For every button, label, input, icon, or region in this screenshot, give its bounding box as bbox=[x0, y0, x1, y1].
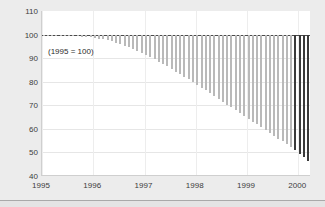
bar bbox=[196, 35, 198, 85]
bar bbox=[273, 35, 275, 136]
bottom-strip bbox=[0, 201, 325, 207]
bar bbox=[77, 35, 79, 37]
bar bbox=[256, 35, 258, 125]
bar bbox=[136, 35, 138, 52]
bar bbox=[201, 35, 203, 88]
bar bbox=[51, 35, 53, 36]
bar bbox=[307, 35, 309, 162]
x-tick-1997: 1997 bbox=[124, 181, 164, 190]
bar bbox=[265, 35, 267, 131]
bar bbox=[183, 35, 185, 77]
bar bbox=[81, 35, 83, 37]
bar bbox=[192, 35, 194, 82]
y-tick-70: 70 bbox=[6, 101, 38, 110]
bar bbox=[132, 35, 134, 50]
bar bbox=[119, 35, 121, 44]
x-tick-1996: 1996 bbox=[72, 181, 112, 190]
chart-figure: 110100908070605040 199519961997199819992… bbox=[0, 0, 325, 207]
bar bbox=[175, 35, 177, 72]
bar bbox=[290, 35, 292, 147]
bar bbox=[124, 35, 126, 46]
bar bbox=[111, 35, 113, 42]
y-tick-80: 80 bbox=[6, 78, 38, 87]
bar bbox=[209, 35, 211, 94]
bar bbox=[252, 35, 254, 122]
bar bbox=[230, 35, 232, 108]
y-tick-40: 40 bbox=[6, 172, 38, 181]
bar bbox=[235, 35, 237, 111]
bar bbox=[154, 35, 156, 60]
bar bbox=[68, 35, 70, 36]
x-tick-1999: 1999 bbox=[226, 181, 266, 190]
bar bbox=[128, 35, 130, 48]
bar bbox=[218, 35, 220, 99]
bar bbox=[239, 35, 241, 114]
bar bbox=[179, 35, 181, 75]
y-tick-90: 90 bbox=[6, 54, 38, 63]
y-tick-50: 50 bbox=[6, 148, 38, 157]
bar bbox=[107, 35, 109, 41]
chart-annotation: (1995 = 100) bbox=[48, 47, 94, 56]
y-tick-100: 100 bbox=[6, 31, 38, 40]
bar bbox=[115, 35, 117, 43]
bar bbox=[166, 35, 168, 67]
bar bbox=[64, 35, 66, 36]
bar bbox=[72, 35, 74, 37]
bar bbox=[43, 35, 45, 36]
bar bbox=[55, 35, 57, 36]
bar bbox=[145, 35, 147, 56]
bar bbox=[141, 35, 143, 53]
bar bbox=[205, 35, 207, 91]
bar bbox=[243, 35, 245, 116]
x-tick-1998: 1998 bbox=[175, 181, 215, 190]
bar bbox=[286, 35, 288, 145]
x-tick-1995: 1995 bbox=[21, 181, 61, 190]
y-tick-110: 110 bbox=[6, 7, 38, 16]
bar bbox=[85, 35, 87, 37]
bar bbox=[158, 35, 160, 62]
bar bbox=[149, 35, 151, 58]
bar bbox=[294, 35, 296, 150]
bar bbox=[303, 35, 305, 158]
bar bbox=[98, 35, 100, 39]
bar bbox=[213, 35, 215, 97]
bar bbox=[162, 35, 164, 65]
bar bbox=[299, 35, 301, 154]
bar bbox=[60, 35, 62, 36]
bar bbox=[277, 35, 279, 139]
bar bbox=[171, 35, 173, 69]
bar bbox=[282, 35, 284, 142]
bar bbox=[90, 35, 92, 38]
bar bbox=[260, 35, 262, 128]
bar bbox=[188, 35, 190, 80]
bar bbox=[222, 35, 224, 102]
y-tick-60: 60 bbox=[6, 125, 38, 134]
bar bbox=[226, 35, 228, 105]
bar bbox=[248, 35, 250, 119]
bar bbox=[102, 35, 104, 40]
bar bbox=[47, 35, 49, 36]
bar-series bbox=[42, 11, 310, 175]
plot-area bbox=[41, 11, 310, 176]
x-tick-2000: 2000 bbox=[277, 181, 317, 190]
bar bbox=[269, 35, 271, 133]
bar bbox=[94, 35, 96, 38]
